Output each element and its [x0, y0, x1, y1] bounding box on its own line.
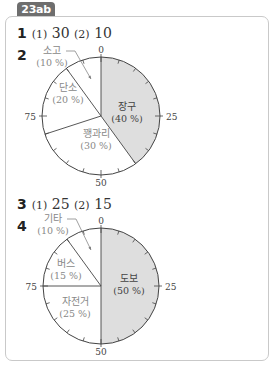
slice-percent: (30 %) [80, 140, 112, 151]
slice-name: 장구 [118, 101, 136, 112]
slice-name: 도보 [120, 273, 138, 284]
slice-name: 기타 [44, 213, 62, 224]
slice-percent: (10 %) [37, 225, 69, 236]
scale-label: 25 [165, 282, 177, 292]
pie-chart-1: 0255075장구(40 %)꽹과리(30 %)단소(20 %)소고(10 %) [25, 45, 178, 188]
slice-name: 꽹과리 [83, 128, 110, 139]
scale-label: 50 [95, 347, 107, 357]
scale-label: 50 [95, 178, 107, 188]
slice-percent: (40 %) [111, 113, 143, 124]
slice-percent: (25 %) [59, 308, 91, 319]
slice-name: 단소 [59, 82, 77, 93]
scale-label: 25 [166, 112, 178, 122]
slice-percent: (20 %) [52, 94, 84, 105]
slice-percent: (15 %) [50, 270, 82, 281]
slice-percent: (10 %) [36, 57, 68, 68]
pie-chart-2: 0255075도보(50 %)자전거(25 %)버스(15 %)기타(10 %) [26, 213, 177, 357]
scale-label: 0 [98, 216, 104, 226]
scale-label: 0 [98, 45, 104, 55]
scale-label: 75 [26, 282, 38, 292]
slice-name: 자전거 [62, 296, 89, 307]
slice-percent: (50 %) [113, 285, 145, 296]
scale-label: 75 [25, 112, 37, 122]
slice-name: 소고 [43, 45, 61, 56]
pie-charts: 0255075장구(40 %)꽹과리(30 %)단소(20 %)소고(10 %)… [0, 0, 275, 374]
slice-name: 버스 [57, 258, 75, 269]
